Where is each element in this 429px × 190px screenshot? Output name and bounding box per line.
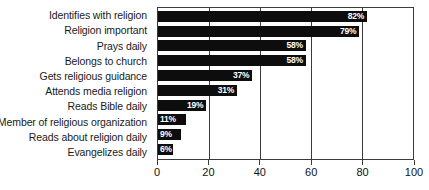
bar-chart: Identifies with religion Religion import…: [0, 0, 429, 190]
bar-row: 58%: [158, 53, 413, 68]
bar[interactable]: 37%: [158, 70, 252, 81]
bar-row: 9%: [158, 127, 413, 142]
bar[interactable]: 19%: [158, 100, 206, 111]
bar-value-label: 58%: [286, 56, 302, 65]
bar[interactable]: 11%: [158, 114, 186, 125]
bar[interactable]: 31%: [158, 85, 237, 96]
plot-area: 82% 79% 58% 58% 37% 31% 19% 11% 9% 6%: [157, 7, 414, 160]
bar[interactable]: 9%: [158, 129, 181, 140]
axis-tick-label: 80: [356, 166, 368, 178]
category-label: Attends media religion: [0, 84, 152, 99]
category-axis: Identifies with religion Religion import…: [0, 7, 152, 160]
category-label-text: Member of religious organization: [0, 117, 147, 128]
axis-tick-label: 100: [405, 166, 423, 178]
bar[interactable]: 58%: [158, 40, 306, 51]
bar-value-label: 31%: [218, 86, 234, 95]
category-label: Reads about religion daily: [0, 130, 152, 145]
bar-value-label: 11%: [160, 115, 176, 124]
bar-row: 58%: [158, 39, 413, 54]
bar[interactable]: 58%: [158, 55, 306, 66]
bar-value-label: 19%: [187, 101, 203, 110]
category-label: Evangelizes daily: [0, 145, 152, 160]
category-label: Belongs to church: [0, 54, 152, 69]
bar-row: 82%: [158, 9, 413, 24]
bars-layer: 82% 79% 58% 58% 37% 31% 19% 11% 9% 6%: [158, 8, 413, 159]
bar-row: 31%: [158, 83, 413, 98]
axis-tick-mark: [208, 160, 209, 165]
bar-row: 37%: [158, 68, 413, 83]
axis-tick-mark: [259, 160, 260, 165]
bar-value-label: 9%: [160, 130, 172, 139]
axis-tick-label: 20: [202, 166, 214, 178]
bar-row: 11%: [158, 113, 413, 128]
bar-value-label: 6%: [160, 145, 172, 154]
bar-value-label: 37%: [233, 71, 249, 80]
bar-value-label: 58%: [286, 41, 302, 50]
category-label: Gets religious guidance: [0, 69, 152, 84]
bar[interactable]: 6%: [158, 144, 173, 155]
category-label: Prays daily: [0, 38, 152, 53]
category-label: Identifies with religion: [0, 8, 152, 23]
category-label: Member of religious organization: [0, 114, 152, 129]
axis-tick-label: 40: [254, 166, 266, 178]
category-label-text: Gets religious guidance: [40, 71, 147, 82]
category-label-text: Religion important: [64, 25, 147, 36]
bar-row: 79%: [158, 24, 413, 39]
category-label-text: Identifies with religion: [49, 10, 147, 21]
bar-value-label: 82%: [348, 12, 364, 21]
category-label-text: Attends media religion: [45, 86, 147, 97]
axis-tick-mark: [157, 160, 158, 165]
category-label-text: Belongs to church: [65, 56, 147, 67]
value-axis: 020406080100: [157, 160, 414, 190]
bar-value-label: 79%: [340, 27, 356, 36]
bar-row: 19%: [158, 98, 413, 113]
bar[interactable]: 82%: [158, 11, 367, 22]
category-label-text: Prays daily: [97, 41, 147, 52]
bar[interactable]: 79%: [158, 26, 359, 37]
bar-row: 6%: [158, 142, 413, 157]
axis-tick-label: 0: [154, 166, 160, 178]
axis-tick-label: 60: [305, 166, 317, 178]
axis-tick-mark: [414, 160, 415, 165]
category-label: Reads Bible daily: [0, 99, 152, 114]
category-label: Religion important: [0, 23, 152, 38]
category-label-text: Reads about religion daily: [29, 132, 147, 143]
axis-tick-mark: [362, 160, 363, 165]
category-label-text: Evangelizes daily: [68, 147, 147, 158]
axis-tick-mark: [311, 160, 312, 165]
category-label-text: Reads Bible daily: [68, 101, 147, 112]
